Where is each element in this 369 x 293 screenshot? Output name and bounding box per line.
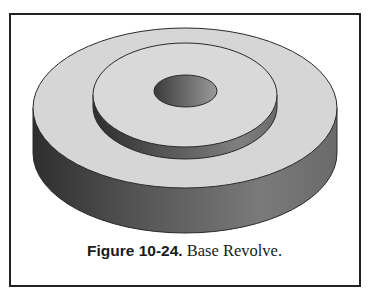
- figure-label: Figure 10-24.: [87, 242, 183, 259]
- figure-title: Base Revolve.: [183, 241, 282, 260]
- figure-caption: Figure 10-24. Base Revolve.: [0, 241, 369, 261]
- center-hole: [154, 75, 217, 107]
